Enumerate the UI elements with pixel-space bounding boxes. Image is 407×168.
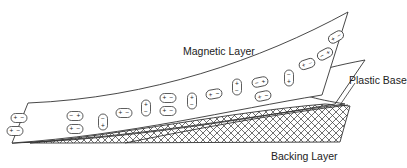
magnetic-particle: −+ xyxy=(67,112,83,121)
backing-layer-label: Backing Layer xyxy=(271,150,338,162)
plus-sign: + xyxy=(163,107,167,114)
plus-sign: + xyxy=(144,101,148,108)
plus-sign: + xyxy=(163,94,167,101)
minus-sign: − xyxy=(144,108,148,115)
plus-sign: + xyxy=(101,122,105,129)
magnetic-particle: +− xyxy=(160,107,176,116)
minus-sign: − xyxy=(190,101,194,108)
minus-sign: − xyxy=(70,112,74,119)
plastic-base-label: Plastic Base xyxy=(349,74,407,86)
plus-sign: + xyxy=(235,80,239,87)
minus-sign: − xyxy=(21,114,25,121)
magnetic-particle: +− xyxy=(160,94,176,103)
magnetic-particle: +− xyxy=(7,127,23,136)
minus-sign: − xyxy=(235,87,239,94)
magnetic-particle: −+ xyxy=(285,70,294,86)
minus-sign: − xyxy=(170,94,174,101)
plus-sign: + xyxy=(287,78,291,85)
magnetic-particle: +− xyxy=(116,109,132,118)
magnetic-particle: −+ xyxy=(99,114,108,130)
magnetic-particle: +− xyxy=(188,93,197,109)
plus-sign: + xyxy=(14,114,18,121)
plus-sign: + xyxy=(190,94,194,101)
plus-sign: + xyxy=(119,109,123,116)
tape-layer-diagram: +−+−−++−−++−+−+−+−+−+−+−−++−−++−−++− Mag… xyxy=(0,0,407,168)
magnetic-particle: +− xyxy=(142,100,151,116)
magnetic-particle: +− xyxy=(233,79,242,95)
minus-sign: − xyxy=(287,71,291,78)
magnetic-layer-label: Magnetic Layer xyxy=(183,45,255,57)
plus-sign: + xyxy=(77,112,81,119)
minus-sign: − xyxy=(77,125,81,132)
minus-sign: − xyxy=(17,127,21,134)
minus-sign: − xyxy=(101,115,105,122)
minus-sign: − xyxy=(126,109,130,116)
plus-sign: + xyxy=(70,125,74,132)
plus-sign: + xyxy=(10,127,14,134)
magnetic-particle: +− xyxy=(11,114,27,123)
minus-sign: − xyxy=(170,107,174,114)
magnetic-particle: +− xyxy=(67,125,83,134)
